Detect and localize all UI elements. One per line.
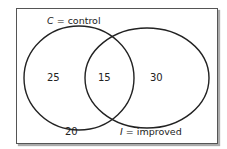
venn-circles	[0, 0, 227, 149]
region-only-i: 30	[150, 72, 163, 83]
set-c-symbol: C	[47, 15, 54, 26]
set-i-label: I = improved	[120, 126, 182, 137]
region-only-c: 25	[47, 72, 60, 83]
set-c-label: C = control	[47, 15, 101, 26]
set-c-name: control	[68, 15, 101, 26]
set-i-eq: =	[123, 126, 137, 137]
set-c-eq: =	[54, 15, 68, 26]
region-neither: 20	[65, 126, 78, 137]
set-i-name: improved	[137, 126, 182, 137]
region-both: 15	[98, 72, 111, 83]
set-c-circle	[24, 26, 134, 130]
